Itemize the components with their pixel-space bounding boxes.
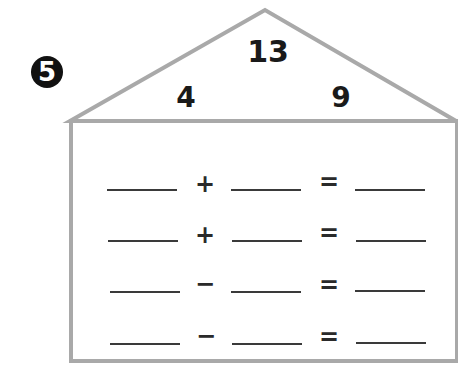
minus-operator: − bbox=[196, 324, 216, 348]
answer-blank-difference[interactable] bbox=[356, 342, 426, 344]
minus-operator: − bbox=[195, 272, 215, 296]
plus-operator: + bbox=[195, 172, 215, 196]
roof-right-part-number: 9 bbox=[331, 84, 350, 112]
answer-blank-addend-1[interactable] bbox=[107, 189, 177, 191]
answer-blank-addend-2[interactable] bbox=[232, 240, 302, 242]
answer-blank-minuend[interactable] bbox=[110, 291, 180, 293]
equals-sign: = bbox=[319, 325, 339, 349]
answer-blank-addend-2[interactable] bbox=[231, 189, 301, 191]
answer-blank-subtrahend[interactable] bbox=[231, 291, 301, 293]
equals-sign: = bbox=[319, 170, 339, 194]
answer-blank-difference[interactable] bbox=[355, 290, 425, 292]
plus-operator: + bbox=[195, 223, 215, 247]
answer-blank-addend-1[interactable] bbox=[108, 240, 178, 242]
answer-blank-sum[interactable] bbox=[355, 189, 425, 191]
answer-blank-sum[interactable] bbox=[356, 240, 426, 242]
roof-left-part-number: 4 bbox=[176, 84, 195, 112]
equals-sign: = bbox=[319, 273, 339, 297]
answer-blank-minuend[interactable] bbox=[110, 343, 180, 345]
roof-total-number: 13 bbox=[247, 37, 289, 67]
equals-sign: = bbox=[319, 221, 339, 245]
answer-blank-subtrahend[interactable] bbox=[232, 343, 302, 345]
